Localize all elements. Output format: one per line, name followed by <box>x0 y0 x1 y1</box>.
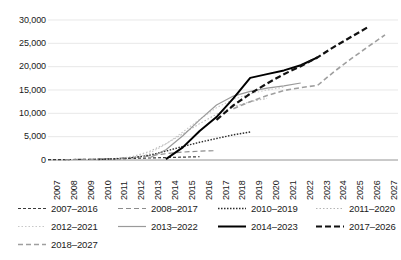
x-axis-tick-label: 2024 <box>338 180 348 200</box>
legend-item[interactable]: 2007–2016 <box>18 204 98 214</box>
x-axis-tick-label: 2009 <box>86 180 96 200</box>
legend-item[interactable]: 2008–2017 <box>118 204 198 214</box>
x-axis-tick-label: 2017 <box>221 180 231 200</box>
legend-item[interactable]: 2010–2019 <box>218 204 298 214</box>
x-axis-tick-label: 2007 <box>52 180 62 200</box>
legend-label: 2012–2021 <box>51 222 98 232</box>
legend-swatch-icon <box>316 204 344 213</box>
series-line <box>166 57 318 159</box>
x-axis-tick-label: 2010 <box>103 180 113 200</box>
x-axis-tick-label: 2019 <box>254 180 264 200</box>
series-line <box>217 27 369 120</box>
legend-item[interactable]: 2011–2020 <box>316 204 395 214</box>
x-axis-tick-label: 2025 <box>355 180 365 200</box>
x-axis-tick-label: 2021 <box>288 180 298 200</box>
x-axis-tick-label: 2018 <box>237 180 247 200</box>
legend-item[interactable]: 2017–2026 <box>316 222 396 232</box>
legend-label: 2010–2019 <box>251 204 298 214</box>
x-axis-tick-label: 2027 <box>389 180 399 200</box>
legend-label: 2017–2026 <box>349 222 396 232</box>
legend-label: 2014–2023 <box>251 222 298 232</box>
x-axis-tick-label: 2026 <box>372 180 382 200</box>
legend-swatch-icon <box>218 222 246 231</box>
legend-swatch-icon <box>118 222 146 231</box>
x-axis-tick-label: 2015 <box>187 180 197 200</box>
x-axis-tick-label: 2023 <box>322 180 332 200</box>
x-axis-tick-label: 2014 <box>170 180 180 200</box>
series-line <box>115 98 267 159</box>
legend-label: 2007–2016 <box>51 204 98 214</box>
x-axis-tick-label: 2016 <box>204 180 214 200</box>
legend-item[interactable]: 2014–2023 <box>218 222 298 232</box>
series-line <box>149 83 301 158</box>
legend-item[interactable]: 2012–2021 <box>18 222 98 232</box>
legend-label: 2013–2022 <box>151 222 198 232</box>
legend-item[interactable]: 2013–2022 <box>118 222 198 232</box>
legend-label: 2018–2027 <box>51 240 98 250</box>
x-axis-tick-label: 2011 <box>119 181 129 200</box>
x-axis-tick-label: 2012 <box>136 180 146 200</box>
legend-row: 2018–2027 <box>0 240 401 257</box>
legend-swatch-icon <box>218 204 246 213</box>
x-axis-tick-label: 2020 <box>271 180 281 200</box>
legend-swatch-icon <box>18 222 46 231</box>
legend-swatch-icon <box>118 204 146 213</box>
x-axis-tick-label: 2022 <box>305 180 315 200</box>
chart-legend: 2007–20162008–20172010–20192011–20202012… <box>0 204 401 260</box>
series-line <box>99 132 251 159</box>
legend-row: 2007–20162008–20172010–20192011–2020 <box>0 204 401 221</box>
legend-swatch-icon <box>18 204 46 213</box>
line-chart: 30,000 25,000 20,000 15,000 10,000 5,000… <box>0 0 401 260</box>
legend-swatch-icon <box>316 222 344 231</box>
legend-label: 2008–2017 <box>151 204 198 214</box>
series-line <box>233 35 385 109</box>
legend-row: 2012–20212013–20222014–20232017–2026 <box>0 222 401 239</box>
legend-swatch-icon <box>18 240 46 249</box>
legend-item[interactable]: 2018–2027 <box>18 240 98 250</box>
legend-label: 2011–2020 <box>349 204 395 214</box>
x-axis-tick-label: 2008 <box>69 180 79 200</box>
x-axis-tick-label: 2013 <box>153 180 163 200</box>
plot-area <box>0 0 401 170</box>
